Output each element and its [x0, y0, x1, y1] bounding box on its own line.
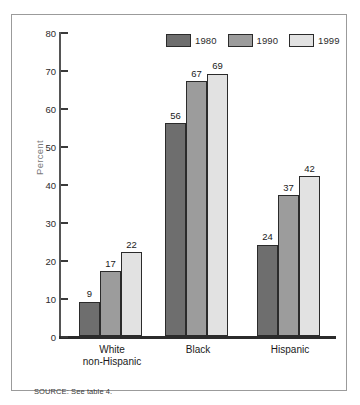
bar-value-label: 24: [262, 232, 273, 242]
bar-value-label: 17: [105, 259, 116, 269]
category-label-line: non-Hispanic: [52, 356, 172, 368]
y-tick-label-40: 40: [45, 180, 56, 191]
bar-rect: [121, 252, 142, 336]
bar-rect: [165, 123, 186, 336]
bar-rect: [100, 271, 121, 336]
bar-rect: [186, 81, 207, 336]
bar-value-label: 69: [212, 61, 223, 71]
bar-1980-3[interactable]: 24: [257, 32, 278, 336]
bar-1980-2[interactable]: 56: [165, 32, 186, 336]
figure-frame: 1980 1990 1999 Percent 01020304050607080…: [11, 14, 347, 391]
source-note: SOURCE: See table 4.: [34, 387, 112, 396]
bar-rect: [207, 74, 228, 336]
bar-value-label: 22: [126, 240, 137, 250]
bar-rect: [257, 245, 278, 336]
bar-1999-3[interactable]: 42: [299, 32, 320, 336]
category-label-3: Hispanic: [230, 344, 350, 356]
y-tick-label-80: 80: [45, 28, 56, 39]
bar-1980-1[interactable]: 9: [79, 32, 100, 336]
bar-rect: [299, 176, 320, 336]
plot-area: 01020304050607080 91722566769243742: [59, 32, 336, 338]
y-tick-label-20: 20: [45, 256, 56, 267]
bar-rect: [79, 302, 100, 336]
bar-value-label: 42: [304, 164, 315, 174]
y-tick-label-50: 50: [45, 142, 56, 153]
bar-1999-2[interactable]: 69: [207, 32, 228, 336]
bar-value-label: 56: [170, 111, 181, 121]
bar-value-label: 67: [191, 69, 202, 79]
bar-1990-3[interactable]: 37: [278, 32, 299, 336]
bar-group-3: 243742: [257, 32, 320, 336]
category-label-line: Hispanic: [230, 344, 350, 356]
bars-layer: 91722566769243742: [61, 32, 336, 338]
bar-1999-1[interactable]: 22: [121, 32, 142, 336]
y-tick-label-0: 0: [51, 332, 56, 343]
bar-group-1: 91722: [79, 32, 142, 336]
bar-1990-2[interactable]: 67: [186, 32, 207, 336]
y-tick-label-70: 70: [45, 66, 56, 77]
y-tick-label-60: 60: [45, 104, 56, 115]
bar-group-2: 566769: [165, 32, 228, 336]
bar-value-label: 9: [87, 289, 92, 299]
y-tick-label-30: 30: [45, 218, 56, 229]
bar-value-label: 37: [283, 183, 294, 193]
y-axis-title: Percent: [34, 140, 45, 175]
bar-rect: [278, 195, 299, 336]
bar-1990-1[interactable]: 17: [100, 32, 121, 336]
y-tick-label-10: 10: [45, 294, 56, 305]
